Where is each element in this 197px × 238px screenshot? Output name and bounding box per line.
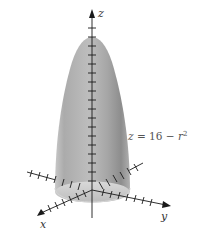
paraboloid-surface [55,37,130,203]
x-axis-label: x [40,219,46,230]
y-axis-label: y [161,211,167,222]
z-arrow-icon [89,9,95,18]
x-arrow-icon [37,209,45,216]
paraboloid-figure [0,0,197,238]
equation-label: z = 16 − r2 [128,131,187,142]
equation-lhs: z [128,130,134,142]
z-axis-label: z [98,8,104,19]
y-arrow-icon [162,201,171,208]
equation-constant: 16 [149,130,162,142]
equation-exp: 2 [183,130,187,138]
equation-minus: − [166,130,175,142]
equation-equals: = [137,130,146,142]
